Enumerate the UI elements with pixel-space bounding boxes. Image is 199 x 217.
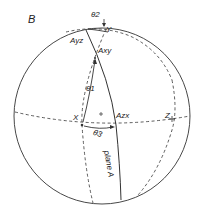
theta2-label: θ2	[91, 11, 100, 19]
theta3-arc	[84, 126, 113, 128]
axy-label: Axy	[98, 47, 111, 55]
azx-label: Azx	[116, 112, 129, 120]
theta3-arrowhead	[110, 125, 115, 129]
axy-point	[94, 57, 96, 59]
center-mark	[99, 112, 103, 116]
ayz-label: Ayz	[70, 37, 83, 45]
x-axis-label: X	[73, 114, 78, 122]
x-meridian-dashed	[82, 29, 106, 203]
theta1-label: θ1	[86, 85, 95, 93]
y-axis-label: Y	[106, 26, 111, 34]
panel-label: B	[28, 14, 35, 25]
z-axis-label: Z	[165, 112, 170, 120]
sphere-diagram	[0, 0, 199, 217]
x-point	[81, 124, 84, 127]
z-meridian-dashed	[138, 80, 175, 195]
